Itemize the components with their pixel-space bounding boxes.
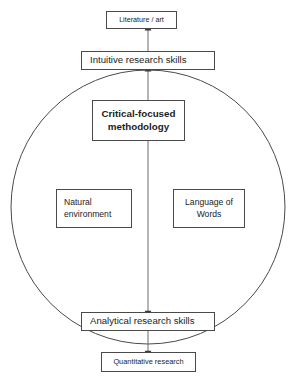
node-natural-environment-label-line2: environment	[64, 209, 124, 220]
node-literature-art[interactable]: Literature / art	[106, 11, 177, 29]
node-critical-focused-methodology-label-line2: methodology	[97, 121, 180, 134]
node-intuitive-research-skills[interactable]: Intuitive research skills	[81, 51, 215, 70]
diagram-canvas: Literature / art Intuitive research skil…	[0, 0, 299, 386]
node-natural-environment-label-line1: Natural	[64, 197, 124, 208]
node-intuitive-research-skills-label: Intuitive research skills	[90, 54, 206, 67]
node-critical-focused-methodology[interactable]: Critical-focused methodology	[92, 100, 185, 141]
node-natural-environment[interactable]: Natural environment	[56, 189, 132, 228]
node-critical-focused-methodology-label-line1: Critical-focused	[97, 108, 180, 121]
node-literature-art-label: Literature / art	[110, 15, 173, 25]
node-analytical-research-skills-label: Analytical research skills	[90, 315, 206, 328]
node-language-of-words-label-line2: Words	[178, 209, 240, 220]
node-quantitative-research[interactable]: Quantitative research	[101, 352, 196, 372]
node-analytical-research-skills[interactable]: Analytical research skills	[81, 312, 215, 331]
node-language-of-words[interactable]: Language of Words	[173, 189, 245, 228]
node-language-of-words-label-line1: Language of	[178, 197, 240, 208]
node-quantitative-research-label: Quantitative research	[105, 357, 192, 367]
